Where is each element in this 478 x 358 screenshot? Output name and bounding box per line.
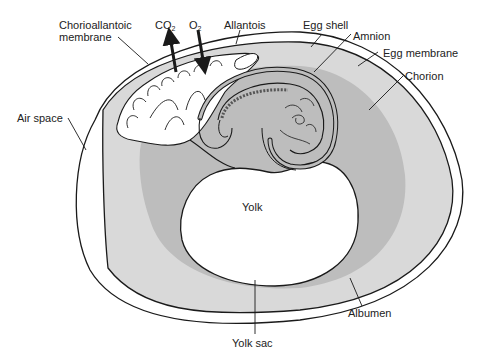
label-o2: O2 [189, 19, 201, 35]
label-albumen: Albumen [348, 307, 391, 319]
label-amnion: Amnion [353, 30, 390, 42]
label-air-space: Air space [17, 112, 63, 124]
label-chorioallantoic-membrane-line2: membrane [59, 31, 112, 43]
label-egg-shell: Egg shell [303, 19, 348, 31]
label-yolk: Yolk [242, 201, 262, 213]
label-co2-text: CO [155, 19, 172, 31]
label-egg-membrane: Egg membrane [383, 47, 458, 59]
label-yolk-sac: Yolk sac [232, 337, 273, 349]
yolk [181, 162, 359, 286]
label-chorion: Chorion [405, 70, 444, 82]
label-chorioallantoic-membrane-line1: Chorioallantoic [59, 19, 132, 31]
label-o2-text: O [189, 19, 198, 31]
label-co2-sub: 2 [172, 25, 176, 32]
egg-diagram: Chorioallantoic membrane CO2 O2 Allantoi… [0, 0, 478, 358]
label-allantois: Allantois [224, 19, 266, 31]
label-co2: CO2 [155, 19, 175, 35]
label-o2-sub: 2 [198, 25, 202, 32]
